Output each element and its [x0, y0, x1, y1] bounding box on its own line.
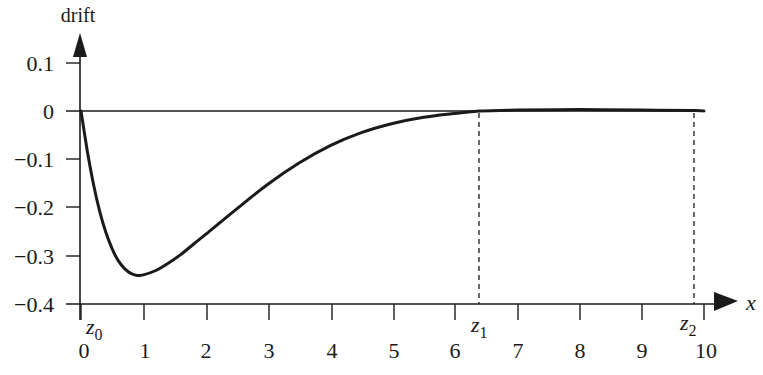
y-tick-label: 0	[43, 99, 54, 124]
x-tick-label: 3	[264, 338, 275, 363]
x-tick-label: 5	[389, 338, 400, 363]
z2-label: z2	[679, 310, 697, 339]
x-tick-label: 2	[201, 338, 212, 363]
x-ticks	[81, 304, 704, 320]
x-tick-label: 7	[513, 338, 524, 363]
x-axis-arrow-icon	[714, 292, 738, 311]
chart-container: drift x 0.1 0 −0.1 −0.2 −0.3 −0.4 0	[0, 0, 763, 375]
x-tick-labels: 0 1 2 3 4 5 6 7 8 9 10	[79, 338, 718, 363]
y-tick-label: −0.3	[14, 244, 54, 269]
x-tick-label: 8	[575, 338, 586, 363]
y-axis-arrow-icon	[73, 33, 87, 57]
y-tick-label: −0.2	[14, 195, 54, 220]
y-axis-title: drift	[61, 4, 96, 26]
drift-curve	[81, 110, 704, 276]
x-tick-label: 10	[695, 338, 717, 363]
y-ticks	[66, 63, 80, 256]
drift-chart: drift x 0.1 0 −0.1 −0.2 −0.3 −0.4 0	[0, 0, 763, 375]
y-tick-label: −0.1	[14, 147, 54, 172]
z0-label: z0	[85, 314, 103, 343]
x-tick-label: 4	[327, 338, 338, 363]
x-axis-title: x	[745, 290, 756, 315]
y-tick-label: 0.1	[27, 51, 55, 76]
z1-label: z1	[470, 312, 488, 341]
x-tick-label: 6	[450, 338, 461, 363]
x-tick-label: 0	[79, 338, 90, 363]
y-tick-labels: 0.1 0 −0.1 −0.2 −0.3 −0.4	[14, 51, 54, 317]
x-tick-label: 1	[140, 338, 151, 363]
x-tick-label: 9	[637, 338, 648, 363]
y-tick-label: −0.4	[14, 292, 54, 317]
